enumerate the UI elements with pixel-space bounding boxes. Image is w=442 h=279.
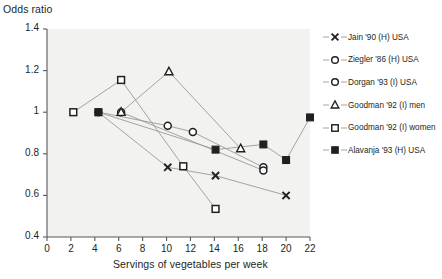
- x-tick-label: 6: [109, 243, 129, 254]
- x-tick-label: 10: [157, 243, 177, 254]
- y-tick-label: 1: [13, 105, 39, 116]
- legend-item-2[interactable]: Dorgan '93 (I) USA: [322, 71, 440, 94]
- x-marker-icon: [332, 34, 339, 41]
- x-tick-label: 14: [204, 243, 224, 254]
- legend-item-label: Goodman '92 (I) women: [348, 123, 436, 132]
- x-tick-label: 22: [300, 243, 320, 254]
- legend-item-4[interactable]: Goodman '92 (I) women: [322, 116, 440, 139]
- legend-item-1[interactable]: Ziegler '86 (H) USA: [322, 49, 440, 72]
- y-tick-label: 0.6: [13, 188, 39, 199]
- circle-open-marker-icon: [164, 122, 171, 129]
- y-axis-label: Odds ratio: [3, 3, 52, 15]
- legend-item-label: Goodman '92 (I) men: [348, 101, 425, 110]
- square-open-marker-icon: [212, 206, 219, 213]
- x-tick-label: 18: [252, 243, 272, 254]
- square-open-marker-icon: [180, 163, 187, 170]
- circle-open-marker-icon: [322, 53, 348, 67]
- square-open-marker-icon: [322, 121, 348, 135]
- plot-area-background: [47, 29, 310, 237]
- x-tick-label: 2: [61, 243, 81, 254]
- x-marker-icon: [322, 30, 348, 44]
- x-tick-label: 4: [85, 243, 105, 254]
- circle-open-marker-icon: [332, 57, 339, 64]
- square-filled-marker-icon: [212, 146, 219, 153]
- circle-open-marker-icon: [189, 128, 196, 135]
- x-tick-label: 8: [133, 243, 153, 254]
- legend-item-0[interactable]: Jain '90 (H) USA: [322, 26, 440, 49]
- y-tick-label: 1.4: [13, 22, 39, 33]
- legend-item-label: Ziegler '86 (H) USA: [348, 55, 419, 64]
- x-tick-label: 16: [228, 243, 248, 254]
- chart-legend: Jain '90 (H) USAZiegler '86 (H) USADorga…: [322, 26, 440, 162]
- square-filled-marker-icon: [322, 143, 348, 157]
- x-tick-label: 0: [37, 243, 57, 254]
- y-tick-label: 1.2: [13, 64, 39, 75]
- legend-item-label: Dorgan '93 (I) USA: [348, 78, 417, 87]
- triangle-open-marker-icon: [331, 101, 339, 108]
- legend-item-5[interactable]: Alavanja '93 (H) USA: [322, 139, 440, 162]
- square-open-marker-icon: [70, 109, 77, 116]
- circle-open-marker-icon: [260, 167, 267, 174]
- circle-open-marker-icon: [322, 75, 348, 89]
- square-open-marker-icon: [332, 124, 338, 130]
- y-tick-label: 0.4: [13, 230, 39, 241]
- legend-item-label: Jain '90 (H) USA: [348, 33, 409, 42]
- x-tick-label: 20: [276, 243, 296, 254]
- y-tick-label: 0.8: [13, 147, 39, 158]
- x-axis-label: Servings of vegetables per week: [113, 258, 268, 270]
- x-tick-label: 12: [180, 243, 200, 254]
- square-open-marker-icon: [118, 77, 125, 84]
- legend-item-3[interactable]: Goodman '92 (I) men: [322, 94, 440, 117]
- circle-open-marker-icon: [332, 79, 339, 86]
- square-filled-marker-icon: [307, 114, 314, 121]
- square-filled-marker-icon: [332, 147, 338, 153]
- triangle-open-marker-icon: [322, 98, 348, 112]
- square-filled-marker-icon: [95, 109, 102, 116]
- square-filled-marker-icon: [260, 141, 267, 148]
- legend-item-label: Alavanja '93 (H) USA: [348, 146, 425, 155]
- square-filled-marker-icon: [283, 157, 290, 164]
